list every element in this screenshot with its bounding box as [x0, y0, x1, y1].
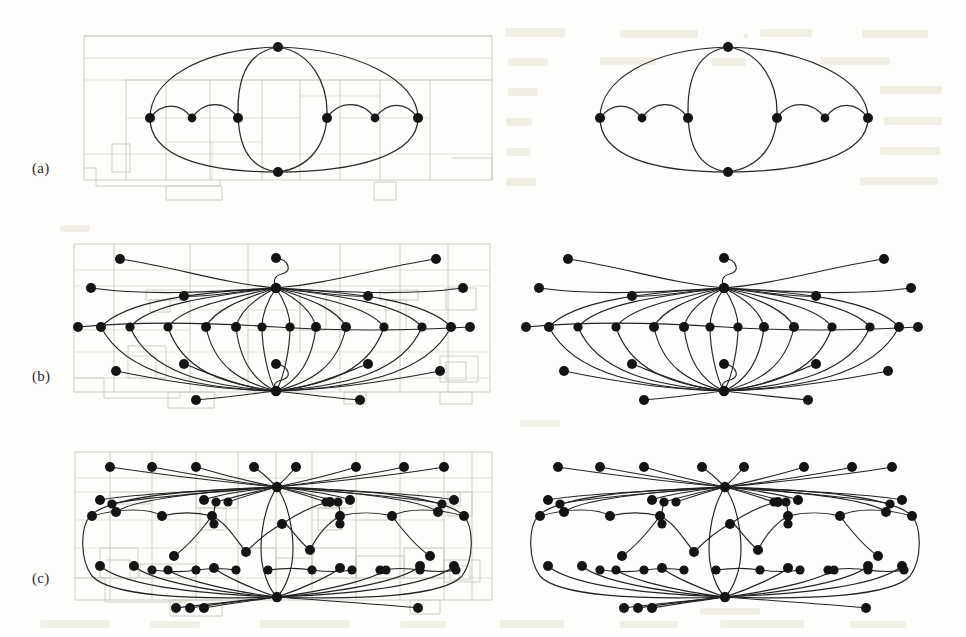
- row-a-plan-overlay: [84, 36, 492, 200]
- graph-b-left: [73, 253, 475, 405]
- row-label-a: (a): [32, 160, 50, 177]
- floorplan-b: [74, 244, 490, 408]
- graph-a-left: [145, 42, 423, 177]
- floorplan-c: [75, 452, 492, 616]
- scan-bleed-layer: • • •: [40, 27, 942, 628]
- row-label-c: (c): [32, 570, 50, 587]
- row-b-plan-overlay: [73, 244, 490, 408]
- figure-svg: • • •: [0, 0, 966, 637]
- graph-b-right: [521, 253, 923, 405]
- graph-c-left: [83, 462, 472, 613]
- row-label-b: (b): [32, 368, 50, 385]
- graph-c-right: [531, 462, 920, 613]
- row-c-plan-overlay: [75, 452, 492, 616]
- figure-container: (a) (b) (c) • • •: [0, 0, 966, 637]
